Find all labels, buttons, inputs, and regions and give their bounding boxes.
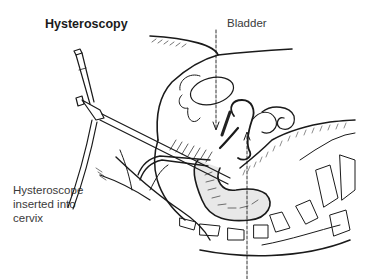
anatomy-illustration: [0, 0, 368, 279]
hysteroscopy-diagram: Hysteroscopy Bladder Hysteroscope insert…: [0, 0, 368, 279]
ovary-shape: [262, 107, 294, 129]
pelvic-outline: [155, 140, 185, 220]
bladder-pointer: [213, 30, 219, 130]
rectum-shape: [194, 160, 270, 221]
abdominal-wall: [150, 36, 292, 140]
back-contour: [240, 120, 355, 168]
